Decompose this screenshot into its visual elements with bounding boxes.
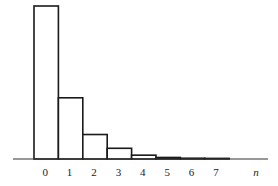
x-tick-label: 0 <box>42 166 48 178</box>
x-tick-label: 1 <box>67 166 73 178</box>
bar-1 <box>58 98 82 159</box>
x-tick-label: 4 <box>140 166 146 178</box>
bar-0 <box>34 6 58 159</box>
x-tick-label: 7 <box>213 166 219 178</box>
bars <box>34 6 229 159</box>
x-axis-label: n <box>253 166 259 178</box>
bar-2 <box>83 135 107 159</box>
x-tick-label: 2 <box>91 166 97 178</box>
bar-chart: 01234567 n <box>0 0 278 186</box>
x-tick-label: 3 <box>116 166 122 178</box>
x-tick-label: 6 <box>189 166 195 178</box>
x-tick-label: 5 <box>164 166 170 178</box>
bar-3 <box>107 148 131 159</box>
x-tick-labels: 01234567 <box>42 166 219 178</box>
